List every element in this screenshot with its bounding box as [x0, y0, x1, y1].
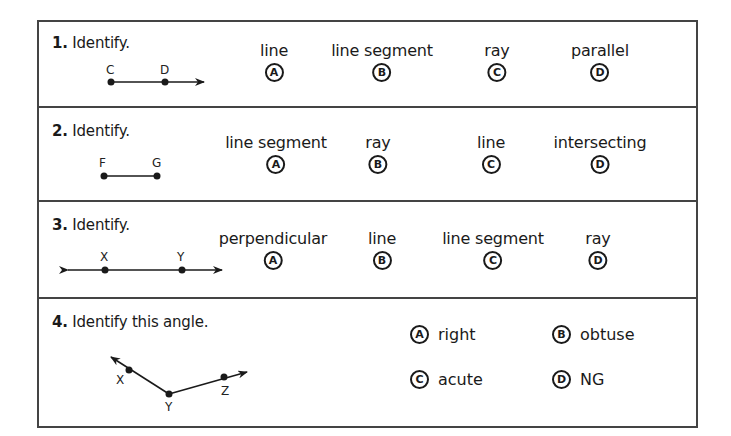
svg-text:X: X — [116, 373, 124, 387]
svg-text:X: X — [100, 250, 108, 264]
svg-text:C: C — [106, 63, 114, 77]
svg-text:D: D — [160, 63, 169, 77]
svg-text:Z: Z — [221, 384, 229, 398]
svg-text:G: G — [152, 156, 161, 170]
geometry-figures: C D F G X Y X Y Z — [0, 0, 731, 436]
svg-text:F: F — [99, 156, 106, 170]
ray-figure: C D — [106, 63, 204, 86]
line-figure: X Y — [68, 250, 222, 274]
angle-figure: X Y Z — [111, 357, 247, 414]
segment-figure: F G — [99, 156, 161, 180]
svg-text:Y: Y — [164, 400, 173, 414]
svg-text:Y: Y — [176, 250, 185, 264]
